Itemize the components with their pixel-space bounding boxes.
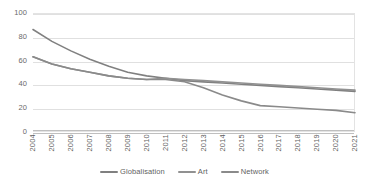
x-tick-label: 2005 — [48, 134, 56, 152]
x-tick-label: 2016 — [257, 134, 265, 152]
y-tick-label: 60 — [18, 57, 27, 65]
x-tick-label: 2021 — [351, 134, 359, 152]
legend-item[interactable]: Network — [221, 168, 269, 176]
legend-label: Globalisation — [120, 168, 165, 176]
x-tick-label: 2010 — [143, 134, 151, 152]
y-tick-label: 0 — [23, 128, 27, 136]
x-tick-label: 2015 — [238, 134, 246, 152]
line-chart: 020406080100 200420052006200720082009201… — [0, 0, 369, 191]
x-tick-label: 2019 — [313, 134, 321, 152]
x-axis: 2004200520062007200820092010201120122013… — [33, 134, 355, 162]
y-tick-label: 80 — [18, 33, 27, 41]
x-axis-line — [33, 130, 354, 131]
x-tick-label: 2011 — [162, 134, 170, 151]
legend-label: Art — [198, 168, 208, 176]
plot-area — [33, 13, 355, 132]
x-tick-label: 2007 — [86, 134, 94, 152]
legend-swatch-icon — [100, 171, 118, 173]
x-tick-label: 2018 — [294, 134, 302, 152]
series-line — [33, 29, 355, 91]
x-tick-label: 2006 — [67, 134, 75, 152]
x-tick-label: 2009 — [124, 134, 132, 152]
x-tick-label: 2017 — [275, 134, 283, 152]
x-tick-label: 2014 — [219, 134, 227, 152]
y-tick-label: 100 — [14, 9, 27, 17]
legend-item[interactable]: Art — [178, 168, 208, 176]
series-lines — [33, 14, 355, 133]
x-tick-label: 2008 — [105, 134, 113, 152]
legend-label: Network — [241, 168, 269, 176]
y-tick-label: 40 — [18, 81, 27, 89]
x-tick-label: 2020 — [332, 134, 340, 152]
legend-swatch-icon — [221, 171, 239, 173]
y-axis: 020406080100 — [0, 13, 31, 132]
x-tick-label: 2013 — [200, 134, 208, 152]
chart-legend: GlobalisationArtNetwork — [0, 165, 369, 179]
x-tick-label: 2012 — [181, 134, 189, 152]
legend-swatch-icon — [178, 171, 196, 173]
x-tick-label: 2004 — [29, 134, 37, 152]
y-tick-label: 20 — [18, 104, 27, 112]
legend-item[interactable]: Globalisation — [100, 168, 165, 176]
series-line — [33, 57, 355, 113]
